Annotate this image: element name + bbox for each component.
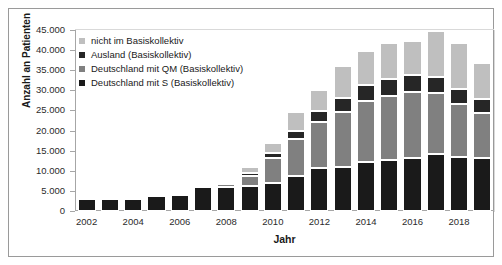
- bar-stack[interactable]: [171, 30, 189, 211]
- bar-segment[interactable]: [334, 167, 352, 211]
- bar-stack[interactable]: [287, 30, 305, 211]
- bar-segment[interactable]: [427, 93, 445, 154]
- bar-stack[interactable]: [264, 30, 282, 211]
- bar-segment[interactable]: [403, 92, 421, 158]
- bar-segment[interactable]: [473, 63, 491, 98]
- bar-segment[interactable]: [264, 143, 282, 153]
- bar-segment[interactable]: [287, 112, 305, 131]
- bar-segment[interactable]: [241, 173, 259, 177]
- bar-segment[interactable]: [287, 176, 305, 211]
- bar-segment[interactable]: [310, 111, 328, 121]
- bar-segment[interactable]: [217, 180, 235, 182]
- bar-stack[interactable]: [78, 30, 96, 211]
- y-tick-label: 45.000: [19, 25, 65, 35]
- bar-segment[interactable]: [403, 158, 421, 211]
- bar-segment[interactable]: [427, 154, 445, 211]
- bar-segment[interactable]: [264, 158, 282, 183]
- bar-stack[interactable]: [427, 30, 445, 211]
- bar-stack[interactable]: [450, 30, 468, 211]
- bar-segment[interactable]: [194, 182, 212, 184]
- bar-stack[interactable]: [217, 30, 235, 211]
- chart-figure: Anzahl an Patienten 05.00010.00015.00020…: [0, 0, 502, 265]
- bar-segment[interactable]: [147, 196, 165, 211]
- bar-segment[interactable]: [310, 90, 328, 111]
- y-tick-label: 25.000: [19, 106, 65, 116]
- bar-segment[interactable]: [310, 122, 328, 168]
- bar-stack[interactable]: [101, 30, 119, 211]
- x-tick-label: 2016: [402, 216, 423, 227]
- bar-segment[interactable]: [357, 162, 375, 211]
- bar-segment[interactable]: [124, 198, 142, 200]
- x-tick-label: 2004: [123, 216, 144, 227]
- bar-stack[interactable]: [403, 30, 421, 211]
- bar-segment[interactable]: [147, 195, 165, 197]
- y-tick-label: 30.000: [19, 86, 65, 96]
- bar-segment[interactable]: [450, 157, 468, 211]
- bar-stack[interactable]: [310, 30, 328, 211]
- bar-segment[interactable]: [171, 190, 189, 192]
- bar-segment[interactable]: [124, 198, 142, 211]
- x-tick-label: 2002: [76, 216, 97, 227]
- bar-segment[interactable]: [287, 139, 305, 176]
- y-tick-mark: [70, 211, 75, 212]
- bar-segment[interactable]: [334, 98, 352, 112]
- y-tick-label: 5.000: [19, 186, 65, 196]
- bar-stack[interactable]: [380, 30, 398, 211]
- bar-segment[interactable]: [450, 89, 468, 104]
- bar-stack[interactable]: [124, 30, 142, 211]
- bar-segment[interactable]: [473, 113, 491, 158]
- bar-segment[interactable]: [171, 195, 189, 211]
- chart-frame: Anzahl an Patienten 05.00010.00015.00020…: [8, 8, 494, 257]
- x-tick-label: 2014: [355, 216, 376, 227]
- bar-segment[interactable]: [357, 101, 375, 163]
- bar-segment[interactable]: [427, 77, 445, 93]
- bar-segment[interactable]: [101, 199, 119, 211]
- y-tick-label: 0: [19, 206, 65, 216]
- bar-segment[interactable]: [427, 31, 445, 77]
- bar-segment[interactable]: [194, 187, 212, 211]
- bar-segment[interactable]: [334, 66, 352, 98]
- bar-segment[interactable]: [241, 186, 259, 211]
- bar-segment[interactable]: [380, 96, 398, 160]
- x-tick-label: 2008: [216, 216, 237, 227]
- plot-right-border: [494, 30, 495, 212]
- bar-segment[interactable]: [380, 160, 398, 211]
- bar-segment[interactable]: [450, 43, 468, 89]
- bar-segment[interactable]: [101, 198, 119, 200]
- bar-segment[interactable]: [403, 41, 421, 75]
- y-tick-label: 10.000: [19, 166, 65, 176]
- y-tick-label: 20.000: [19, 126, 65, 136]
- bar-segment[interactable]: [241, 176, 259, 186]
- bar-segment[interactable]: [241, 167, 259, 173]
- bar-segment[interactable]: [357, 85, 375, 101]
- bar-stack[interactable]: [473, 30, 491, 211]
- bar-segment[interactable]: [357, 51, 375, 85]
- bar-segment[interactable]: [264, 153, 282, 158]
- bar-segment[interactable]: [287, 131, 305, 139]
- bar-segment[interactable]: [264, 183, 282, 211]
- bar-stack[interactable]: [147, 30, 165, 211]
- y-tick-label: 35.000: [19, 65, 65, 75]
- bar-segment[interactable]: [334, 112, 352, 167]
- bar-segment[interactable]: [403, 75, 421, 92]
- bar-segment[interactable]: [380, 79, 398, 95]
- bar-segment[interactable]: [380, 43, 398, 80]
- x-axis-title: Jahr: [75, 233, 494, 245]
- y-tick-label: 40.000: [19, 45, 65, 55]
- bar-stack[interactable]: [241, 30, 259, 211]
- bar-stack[interactable]: [357, 30, 375, 211]
- bar-segment[interactable]: [473, 99, 491, 113]
- x-tick-label: 2018: [449, 216, 470, 227]
- bar-segment[interactable]: [473, 158, 491, 211]
- bar-segment[interactable]: [450, 104, 468, 156]
- bar-segment[interactable]: [217, 182, 235, 184]
- y-tick-label: 15.000: [19, 146, 65, 156]
- bar-stack[interactable]: [334, 30, 352, 211]
- bar-stack[interactable]: [194, 30, 212, 211]
- x-tick-label: 2012: [309, 216, 330, 227]
- bar-segment[interactable]: [217, 187, 235, 211]
- bar-segment[interactable]: [78, 199, 96, 211]
- bar-segment[interactable]: [217, 184, 235, 186]
- x-tick-label: 2010: [262, 216, 283, 227]
- bar-segment[interactable]: [310, 168, 328, 211]
